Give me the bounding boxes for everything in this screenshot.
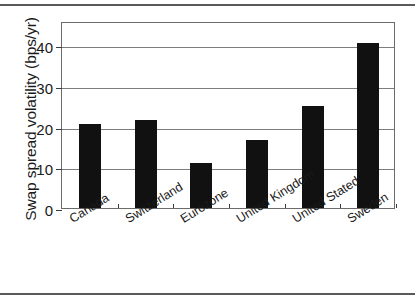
gridline	[62, 88, 394, 89]
x-tick-mark	[340, 204, 341, 208]
y-tick-mark	[56, 210, 62, 211]
y-tick-label: 10	[36, 161, 53, 178]
y-tick-mark	[56, 169, 62, 170]
y-tick-label: 20	[36, 120, 53, 137]
gridline	[62, 47, 394, 48]
y-tick-label: 30	[36, 80, 53, 97]
gridline	[62, 169, 394, 170]
figure-bottom-rule	[0, 293, 415, 295]
x-tick-mark	[396, 204, 397, 208]
y-tick-label: 0	[45, 202, 53, 219]
y-tick-mark	[56, 129, 62, 130]
bar	[302, 106, 324, 208]
x-tick-mark	[285, 204, 286, 208]
y-tick-mark	[56, 88, 62, 89]
gridline	[62, 129, 394, 130]
y-tick-label: 40	[36, 39, 53, 56]
figure-container: Swap spread volatility (bps/yr) 01020304…	[0, 0, 415, 301]
x-tick-mark	[118, 204, 119, 208]
x-tick-mark	[173, 204, 174, 208]
figure-top-rule	[0, 4, 415, 6]
y-tick-mark	[56, 47, 62, 48]
x-tick-mark	[229, 204, 230, 208]
